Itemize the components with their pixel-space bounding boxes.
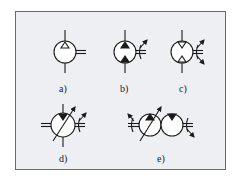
symbol-a-pump-icon [54,30,86,73]
label-e: e) [157,154,165,164]
label-a: a) [59,84,67,94]
symbol-e-transmission-icon [128,107,194,141]
symbol-c-motor-icon [171,30,204,73]
label-c: c) [179,84,187,94]
label-d: d) [59,154,67,164]
label-b: b) [120,84,128,94]
symbol-d-variable-pump-icon [41,104,86,147]
symbol-b-pump-icon [114,30,147,73]
